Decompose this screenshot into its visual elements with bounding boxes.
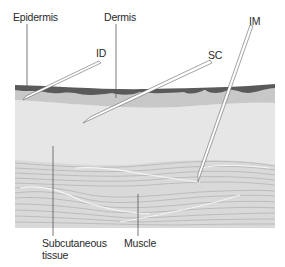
label-subcutaneous-line2: tissue xyxy=(42,249,107,261)
label-subcutaneous-line1: Subcutaneous xyxy=(42,237,107,249)
label-sc: SC xyxy=(208,49,222,61)
label-im: IM xyxy=(249,15,260,27)
label-muscle: Muscle xyxy=(124,237,156,249)
label-subcutaneous: Subcutaneous tissue xyxy=(42,237,107,261)
label-dermis: Dermis xyxy=(104,11,136,23)
label-id: ID xyxy=(96,47,106,59)
subcutaneous-layer xyxy=(15,100,275,165)
injection-diagram xyxy=(0,0,285,267)
label-epidermis: Epidermis xyxy=(13,11,58,23)
